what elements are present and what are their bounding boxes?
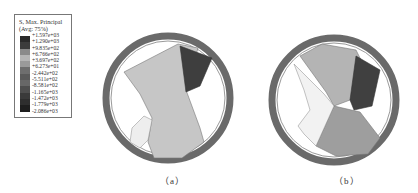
legend-title-line1: S, Max. Principal [19, 18, 62, 25]
legend-colorbar [20, 36, 30, 112]
legend-title: S, Max. Principal (Avg: 75%) [19, 18, 62, 32]
legend-tick: -8.581e+02 [32, 82, 59, 88]
pipe-cross-section-b [264, 30, 404, 170]
colorbar-cell [20, 105, 30, 111]
legend-tick: +1.290e+03 [32, 38, 59, 44]
legend-tick: +9.835e+02 [32, 45, 59, 51]
legend-tick: -1.779e+03 [32, 101, 59, 107]
legend-tick-labels: +1.597e+03+1.290e+03+9.835e+02+6.766e+02… [32, 32, 59, 114]
stress-legend: S, Max. Principal (Avg: 75%) +1.597e+03+… [14, 14, 72, 118]
legend-title-line2: (Avg: 75%) [19, 25, 62, 32]
caption-a: （a） [160, 174, 185, 187]
panel-a-stress-contour [100, 30, 240, 170]
pipe-cross-section-a [100, 30, 240, 170]
panel-b-stress-contour [264, 30, 404, 170]
legend-tick: +6.273e+01 [32, 63, 59, 69]
caption-b: （b） [334, 174, 360, 187]
legend-tick: -2.086e+03 [32, 108, 59, 114]
